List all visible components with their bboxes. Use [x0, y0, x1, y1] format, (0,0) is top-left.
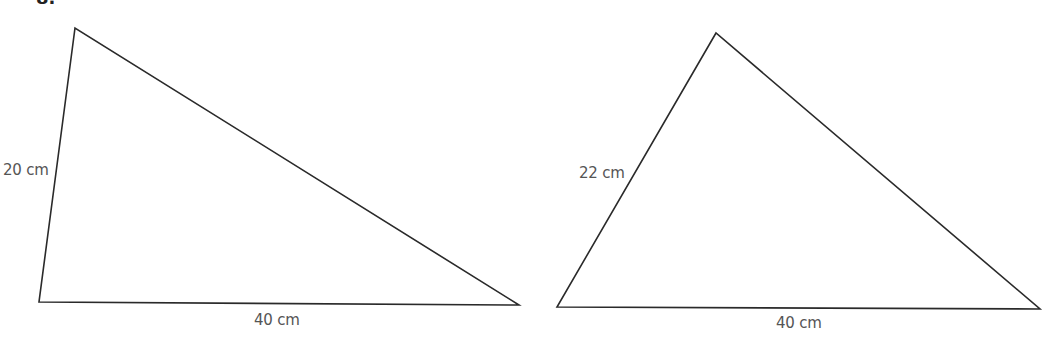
triangle-1-side-label: 20 cm	[3, 161, 49, 179]
triangle-1-base-label: 40 cm	[254, 311, 300, 329]
triangles-diagram	[0, 0, 1047, 337]
triangle-1-shape	[39, 28, 519, 305]
triangle-2-base-label: 40 cm	[776, 314, 822, 332]
triangle-2-shape	[557, 33, 1040, 309]
triangle-2-side-label: 22 cm	[579, 164, 625, 182]
